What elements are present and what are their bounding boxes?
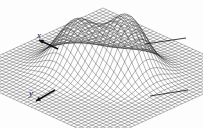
axis-label-x: x — [37, 31, 41, 40]
wireframe-surface-canvas — [0, 0, 203, 128]
axis-label-y: y — [29, 89, 33, 98]
leader-line-lower-right — [150, 90, 188, 96]
mesh-wireframe — [0, 8, 203, 128]
surface-plot-figure: x y — [0, 0, 203, 128]
